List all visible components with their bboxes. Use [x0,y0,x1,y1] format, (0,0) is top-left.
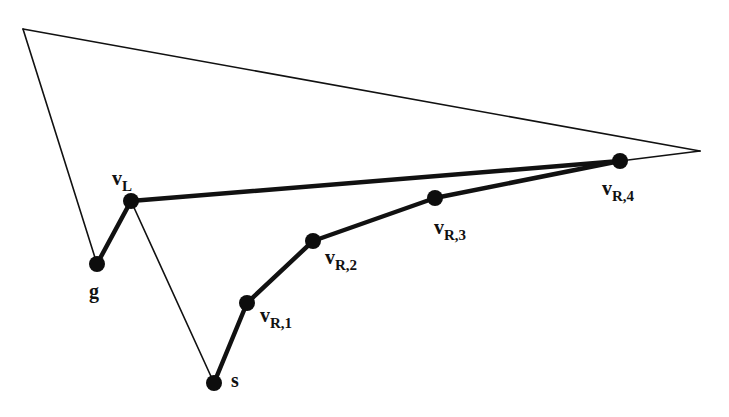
right-chain [214,161,620,383]
polygon-outline [23,29,700,383]
polygon-edge [131,201,214,383]
vertex-vR4 [612,153,628,169]
label-v-r1: vR,1 [260,305,292,331]
label-s: s [231,370,239,396]
funnel-diagram [0,0,729,417]
label-v-r3: vR,3 [434,217,466,243]
vertex-vL [123,193,139,209]
label-v-r2: vR,2 [325,247,357,273]
polygon-edge [23,29,97,264]
vertex-vR2 [305,233,321,249]
shortest-path-chains [97,161,620,383]
label-v-r4: vR,4 [602,178,634,204]
label-g: g [89,281,99,307]
vertex-vR1 [239,295,255,311]
vertex-s [206,375,222,391]
vertex-vR3 [427,190,443,206]
polygon-edge [23,29,700,151]
polygon-edge [620,151,700,161]
path-vertices [89,153,628,391]
vertex-g [89,256,105,272]
label-v-l: vL [112,168,132,194]
